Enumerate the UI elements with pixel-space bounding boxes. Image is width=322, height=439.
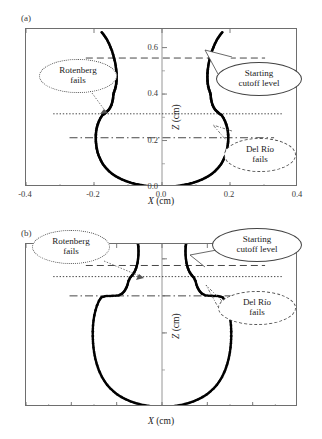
callout-del-rio-a: Del Río fails [224, 138, 296, 172]
callout-rotenberg-b: Rotenberg fails [32, 230, 110, 264]
callout-starting-cutoff-a-text: Starting cutoff level [238, 69, 279, 88]
callout-del-rio-b-text: Del Río fails [243, 298, 271, 317]
callout-rotenberg-a-text: Rotenberg fails [59, 66, 96, 85]
callout-del-rio-a-text: Del Río fails [246, 145, 274, 164]
callout-rotenberg-a: Rotenberg fails [39, 59, 117, 93]
callout-starting-cutoff-b: Starting cutoff level [212, 228, 302, 262]
callout-leaders-a [0, 0, 322, 219]
panel-a: (a) -0.4-0.20.00.20.4 0.00.20.40.6 X (cm… [0, 0, 322, 219]
callout-rotenberg-b-text: Rotenberg fails [52, 237, 89, 256]
callout-starting-cutoff-a: Starting cutoff level [216, 62, 302, 96]
callout-del-rio-b: Del Río fails [218, 291, 296, 325]
pendant-drop-figure: (a) -0.4-0.20.00.20.4 0.00.20.40.6 X (cm… [0, 0, 322, 439]
panel-b: (b) -0.3-0.2-0.10.00.10.20.3 0.00.20.4 X… [0, 219, 322, 439]
callout-starting-cutoff-b-text: Starting cutoff level [236, 235, 277, 254]
